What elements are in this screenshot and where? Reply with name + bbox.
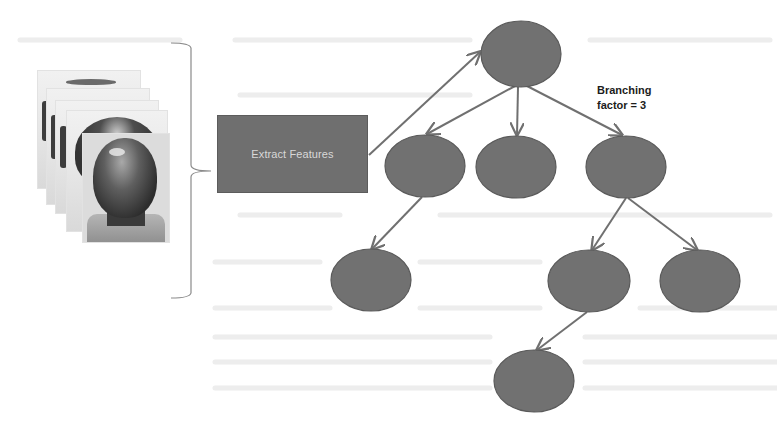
tree-node-l1-right xyxy=(586,136,666,198)
annotation-line-2: factor = 3 xyxy=(597,98,651,113)
edge-root-to-l1-left xyxy=(427,86,515,134)
edge-root-to-l1-mid xyxy=(517,87,518,135)
tree-node-root xyxy=(481,21,561,87)
edge-l1-left-to-l2-left xyxy=(372,197,422,249)
tree-node-l1-left xyxy=(385,135,465,197)
edge-l1-right-to-l2-mid xyxy=(592,198,626,250)
tree-node-l1-mid xyxy=(476,136,556,198)
tree-node-l3 xyxy=(494,350,574,412)
tree-diagram xyxy=(0,0,777,438)
edge-l1-right-to-l2-right xyxy=(628,198,697,250)
tree-node-l2-left xyxy=(331,249,411,311)
annotation-line-1: Branching xyxy=(597,83,651,98)
tree-node-l2-mid xyxy=(548,250,630,312)
edge-l2-mid-to-l3 xyxy=(537,312,587,350)
branching-factor-annotation: Branching factor = 3 xyxy=(597,83,651,113)
tree-node-l2-right xyxy=(660,250,740,312)
